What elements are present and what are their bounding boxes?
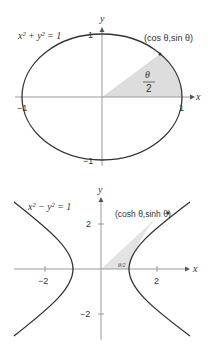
circle-equation: x² + y² = 1: [17, 30, 61, 41]
tick-y-neg2: −2: [80, 309, 90, 319]
bottom-y-axis-label: y: [97, 184, 103, 195]
tick-y-2: 2: [86, 219, 91, 229]
label-layer: y x x² + y² = 1 (cos θ,sin θ) θ 2 1 −1 −…: [0, 0, 212, 356]
tick-y-1: 1: [88, 30, 93, 40]
tick-x-2: 2: [154, 276, 159, 286]
tick-y-neg1: −1: [83, 156, 93, 166]
circle-point-label: (cos θ,sin θ): [144, 33, 193, 43]
top-x-axis-label: x: [195, 91, 201, 102]
tick-x-neg1: −1: [17, 103, 27, 113]
tick-x-1: 1: [179, 103, 184, 113]
circle-area-denominator: 2: [146, 83, 152, 94]
top-y-axis-label: y: [99, 13, 105, 24]
hyperbola-area-label: θ/2: [118, 262, 126, 268]
bottom-x-axis-label: x: [192, 263, 198, 274]
hyperbola-point-label: (cosh θ,sinh θ): [115, 209, 171, 219]
hyperbola-equation: x² − y² = 1: [27, 201, 71, 212]
tick-x-neg2: −2: [38, 276, 48, 286]
circle-area-numerator: θ: [145, 69, 150, 80]
